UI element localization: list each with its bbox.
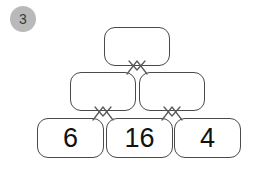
pyramid-cell-top-1[interactable] <box>104 27 170 66</box>
pyramid-cell-bot-1[interactable]: 6 <box>37 118 104 158</box>
pyramid-puzzle-canvas: 3 6164 <box>0 0 255 172</box>
pyramid-cell-bot-2[interactable]: 16 <box>106 118 173 158</box>
pyramid-cell-mid-2[interactable] <box>139 72 205 111</box>
step-number-badge: 3 <box>10 6 36 32</box>
pyramid-cell-bot-3[interactable]: 4 <box>174 118 241 158</box>
pyramid-cell-mid-1[interactable] <box>70 72 136 111</box>
